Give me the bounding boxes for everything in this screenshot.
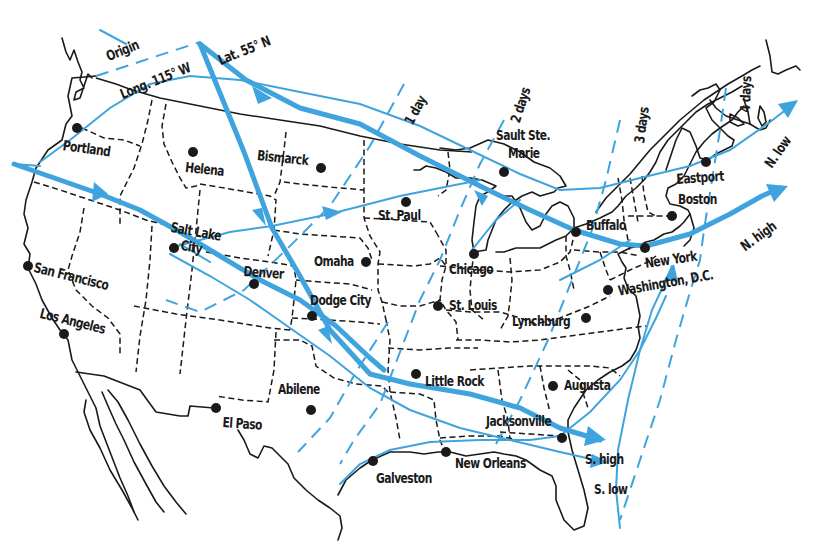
- city-label-jacksonville: Jacksonville: [486, 414, 551, 428]
- city-dot-eastport: [701, 157, 711, 167]
- city-label-marie: Marie: [508, 146, 540, 160]
- isochrone-1-day: [166, 84, 404, 312]
- city-label-omaha: Omaha: [314, 254, 354, 268]
- city-label-chicago: Chicago: [449, 262, 493, 276]
- city-dot-galveston: [368, 456, 378, 466]
- city-label-boston: Boston: [678, 192, 717, 206]
- city-label-eastport: Eastport: [676, 169, 724, 186]
- city-dot-portland: [72, 123, 82, 133]
- arrow-salt-lake-east: [322, 206, 342, 220]
- city-dot-new-york: [640, 243, 650, 253]
- city-dot-bismarck: [316, 163, 326, 173]
- city-dot-salt-lake-city: [169, 243, 179, 253]
- track-origin-south: [200, 44, 600, 440]
- isochrone-label-4-days: 4 days: [738, 76, 753, 112]
- city-label-helena: Helena: [185, 160, 225, 178]
- city-label-augusta: Augusta: [564, 378, 610, 392]
- city-dot-buffalo: [571, 227, 581, 237]
- city-dot-sault-ste-marie: [499, 167, 509, 177]
- isochrone-4-days: [620, 88, 726, 520]
- city-dot-st-paul: [401, 197, 411, 207]
- city-label-city: City: [180, 238, 204, 256]
- city-dot-chicago: [469, 249, 479, 259]
- city-dot-denver: [249, 279, 259, 289]
- city-dot-boston: [667, 211, 677, 221]
- city-label-dodge-city: Dodge City: [310, 293, 371, 307]
- isochrone-3-days: [496, 120, 620, 444]
- city-dot-abilene: [306, 405, 316, 415]
- city-dot-helena: [188, 147, 198, 157]
- city-label-buffalo: Buffalo: [586, 218, 626, 232]
- city-label-lynchburg: Lynchburg: [512, 314, 570, 328]
- city-dot-jacksonville: [557, 433, 567, 443]
- city-dot-san-francisco: [23, 261, 33, 271]
- city-label-st-louis: St. Louis: [449, 298, 497, 312]
- arrow-n-low: [778, 100, 798, 118]
- city-label-new-orleans: New Orleans: [455, 456, 526, 470]
- city-dot-lynchburg: [581, 313, 591, 323]
- city-dot-st-louis: [433, 301, 443, 311]
- city-label-abilene: Abilene: [278, 382, 320, 396]
- city-label-little-rock: Little Rock: [425, 374, 484, 388]
- city-label-sault-ste: Sault Ste.: [496, 128, 550, 142]
- city-dot-washington-dc: [603, 285, 613, 295]
- city-dot-omaha: [361, 257, 371, 267]
- city-dot-augusta: [548, 381, 558, 391]
- city-label-denver: Denver: [243, 264, 284, 281]
- city-label-st-paul: St. Paul: [378, 208, 421, 222]
- city-dot-dodge-city: [307, 311, 317, 321]
- city-dot-los-angeles: [59, 329, 69, 339]
- city-dot-new-orleans: [441, 447, 451, 457]
- city-dot-el-paso: [211, 403, 221, 413]
- arrow-west-coast: [92, 182, 108, 202]
- city-dot-little-rock: [411, 369, 421, 379]
- state-borders: [34, 100, 676, 450]
- city-label-galveston: Galveston: [376, 471, 432, 485]
- track-label-s-low: S. low: [594, 482, 627, 496]
- track-label-s-high: S. high: [585, 452, 624, 466]
- arrow-s-high: [584, 426, 606, 446]
- city-label-el-paso: El Paso: [222, 415, 262, 432]
